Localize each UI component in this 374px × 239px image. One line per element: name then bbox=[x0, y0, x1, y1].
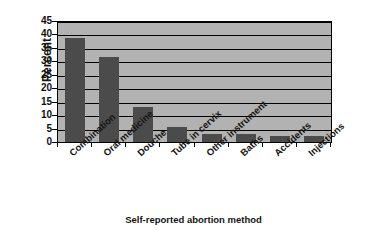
y-axis-tick-label: 40 bbox=[30, 29, 52, 39]
x-axis-tick-mark bbox=[262, 143, 263, 147]
y-axis-tick-label: 30 bbox=[30, 56, 52, 66]
y-axis-tick-label: 5 bbox=[30, 124, 52, 134]
gridline bbox=[58, 22, 331, 23]
x-axis-tick-mark bbox=[228, 143, 229, 147]
x-axis-tick-mark bbox=[296, 143, 297, 147]
x-axis-tick-mark bbox=[57, 143, 58, 147]
x-axis-tick-mark bbox=[91, 143, 92, 147]
x-axis-tick-mark bbox=[194, 143, 195, 147]
bar bbox=[65, 38, 85, 143]
y-axis-tick-label: 10 bbox=[30, 110, 52, 120]
x-axis-tick-mark bbox=[159, 143, 160, 147]
bar bbox=[167, 127, 187, 143]
y-axis-tick-label: 0 bbox=[30, 137, 52, 147]
plot-area bbox=[57, 21, 332, 143]
x-axis-title: Self-reported abortion method bbox=[57, 214, 330, 225]
x-axis-tick-mark bbox=[330, 143, 331, 147]
bar bbox=[133, 107, 153, 143]
y-axis-tick-label: 45 bbox=[30, 16, 52, 26]
y-axis-tick-label: 35 bbox=[30, 43, 52, 53]
bar-chart: Percent 454035302520151050 CombinationOr… bbox=[0, 0, 374, 239]
gridline bbox=[58, 35, 331, 36]
plot-inner bbox=[58, 22, 331, 143]
y-axis-tick-label: 15 bbox=[30, 97, 52, 107]
y-axis-tick-label: 20 bbox=[30, 83, 52, 93]
gridline bbox=[58, 49, 331, 50]
x-axis-tick-mark bbox=[125, 143, 126, 147]
y-axis-tick-label: 25 bbox=[30, 70, 52, 80]
y-axis-tick-labels: 454035302520151050 bbox=[30, 15, 52, 147]
bar bbox=[99, 57, 119, 143]
